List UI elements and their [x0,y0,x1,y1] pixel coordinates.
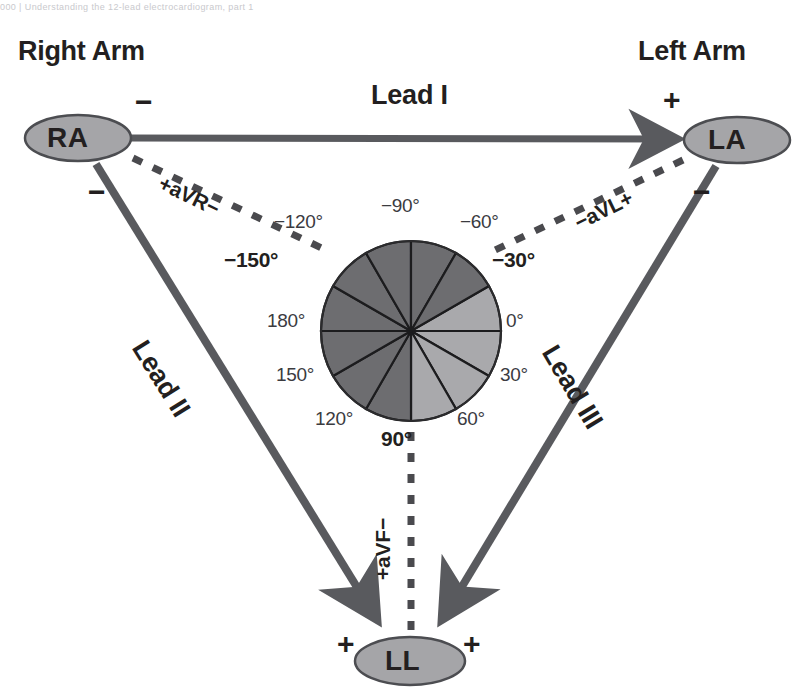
avf-label: +aVF− [372,518,393,580]
right-arm-electrode-label: RA [47,124,88,152]
lead-1-axis-line [128,138,676,139]
diagram-canvas: 000 | Understanding the 12-lead electroc… [0,0,812,694]
lead-2-axis-line [96,164,376,618]
axis-tick--60: −60° [460,212,499,231]
axis-tick-90: 90° [381,428,412,449]
axis-tick--120: −120° [274,212,323,231]
axis-tick--90: −90° [381,196,420,215]
left-arm-electrode-label: LA [708,126,746,154]
ra-bottom-polarity-sign: − [88,177,106,207]
ra-top-polarity-sign: − [135,87,153,117]
la-top-polarity-sign: + [663,85,681,115]
ll-left-polarity-sign: + [337,629,355,659]
la-bottom-polarity-sign: − [693,177,711,207]
axis-tick-30: 30° [500,365,528,384]
axis-tick-60: 60° [457,409,485,428]
ll-right-polarity-sign: + [463,629,481,659]
axis-tick-0: 0° [506,311,524,330]
axis-tick-150: 150° [276,365,314,384]
hexaxial-reference-circle [321,241,501,421]
axis-tick-180: 180° [267,311,305,330]
axis-tick-120: 120° [315,409,353,428]
lead-1-label: Lead I [371,82,448,109]
avr-axis-line [133,158,330,252]
axis-tick--30: −30° [492,249,535,270]
axis-tick--150: −150° [224,249,278,270]
left-arm-title: Left Arm [638,38,746,65]
left-leg-electrode-label: LL [385,647,420,675]
right-arm-title: Right Arm [18,38,145,65]
